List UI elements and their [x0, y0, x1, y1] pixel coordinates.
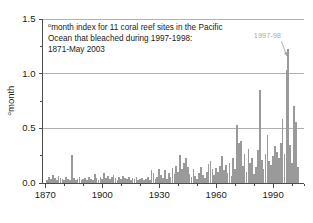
bar: [77, 179, 79, 182]
bar: [177, 172, 179, 183]
bar: [92, 180, 94, 182]
y-axis-title: omonth: [5, 86, 16, 116]
x-tick-label: 1870: [35, 189, 56, 200]
bar: [272, 156, 274, 182]
x-tick-label: 1900: [92, 189, 113, 200]
bar: [249, 163, 251, 183]
title-line: Ocean that bleached during 1997-1998:: [48, 34, 192, 43]
bar: [268, 161, 270, 183]
bar: [81, 180, 83, 182]
bar: [120, 179, 122, 182]
bar: [117, 180, 119, 182]
bar: [280, 143, 282, 182]
bar: [96, 178, 98, 182]
bar: [69, 180, 71, 182]
bar: [162, 178, 164, 182]
bar: [143, 180, 145, 182]
bar: [98, 180, 100, 182]
bar: [134, 179, 136, 182]
bar: [79, 177, 81, 182]
bar: [156, 177, 158, 182]
bar: [147, 177, 149, 182]
y-axis-title-group: omonth: [5, 86, 16, 116]
bar: [139, 179, 141, 182]
bar: [189, 174, 191, 183]
bar: [128, 177, 130, 182]
bar: [297, 167, 299, 182]
y-tick-label: 1.0: [22, 68, 35, 79]
bar: [274, 146, 276, 182]
bar: [115, 178, 117, 182]
bar: [244, 154, 246, 182]
bar: [293, 106, 295, 183]
bar: [282, 119, 284, 182]
bar: [284, 154, 286, 182]
chart-figure: 18701900193019601990 0.00.51.01.5 omonth…: [0, 0, 313, 223]
bar: [111, 177, 113, 182]
bar: [251, 158, 253, 182]
bar: [172, 168, 174, 182]
bar: [270, 165, 272, 182]
bar: [130, 180, 132, 182]
bar-series: [46, 49, 298, 182]
bar: [238, 143, 240, 182]
bar: [86, 180, 88, 182]
bar: [48, 177, 50, 182]
bar: [204, 178, 206, 182]
x-tick-label: 1960: [206, 189, 227, 200]
bar: [56, 180, 58, 182]
bar: [170, 177, 172, 182]
bar: [240, 141, 242, 183]
chart-title: omonth index for 11 coral reef sites in …: [48, 22, 223, 54]
bar: [221, 156, 223, 182]
bar: [236, 125, 238, 183]
bar: [202, 175, 204, 183]
bar: [259, 90, 261, 183]
bar: [286, 70, 288, 183]
bar: [187, 167, 189, 182]
bar: [107, 176, 109, 183]
bar: [132, 178, 134, 182]
bar: [71, 155, 73, 182]
title-line: 1871-May 2003: [48, 45, 105, 54]
bar: [82, 179, 84, 182]
bar: [246, 172, 248, 183]
bar: [166, 179, 168, 182]
axes: [43, 19, 304, 184]
bar: [73, 178, 75, 182]
bar: [179, 155, 181, 182]
bar: [149, 180, 151, 182]
bar: [50, 179, 52, 182]
bar: [215, 168, 217, 182]
bar: [62, 179, 64, 182]
bar: [200, 167, 202, 182]
bar: [212, 169, 214, 182]
x-tick-label: 1990: [263, 189, 284, 200]
y-tick-label: 0.5: [22, 122, 35, 133]
bar: [164, 170, 166, 182]
bar: [124, 178, 126, 182]
bar: [287, 49, 289, 182]
bar: [137, 180, 139, 182]
bar: [217, 172, 219, 183]
bar: [257, 150, 259, 183]
bar: [168, 173, 170, 183]
bar: [183, 163, 185, 183]
bar: [278, 158, 280, 182]
bar: [105, 178, 107, 182]
bar: [122, 176, 124, 183]
bar: [151, 170, 153, 182]
bar: [242, 166, 244, 182]
bar: [90, 179, 92, 182]
bar: [158, 169, 160, 182]
bar: [65, 177, 67, 182]
bar: [153, 173, 155, 183]
bar: [136, 177, 138, 182]
bar: [103, 173, 105, 183]
bar: [194, 176, 196, 183]
bar: [231, 176, 233, 183]
y-tick-labels: 0.00.51.01.5: [22, 13, 35, 188]
bar: [289, 145, 291, 182]
bar: [229, 163, 231, 183]
bar: [52, 175, 54, 183]
